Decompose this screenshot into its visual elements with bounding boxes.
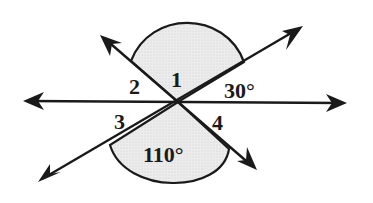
arrow-upper-right-icon [282,26,303,50]
angle-label-30: 30° [224,78,255,103]
arrow-lower-left-icon [38,164,61,182]
angle-label-110: 110° [143,142,184,167]
horizontal-line [28,101,340,103]
angle-label-4: 4 [212,110,223,135]
angle-label-3: 3 [114,109,125,134]
angle-label-1: 1 [171,67,182,92]
intersecting-lines-diagram: 1 2 30° 3 4 110° [0,0,373,203]
arrow-lower-right-icon [237,147,257,170]
angle-label-2: 2 [129,74,140,99]
arrow-upper-left-icon [100,35,122,56]
